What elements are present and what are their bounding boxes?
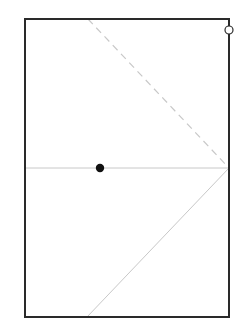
diagram-canvas: [0, 0, 241, 335]
filled-point: [96, 164, 104, 172]
hollow-point: [225, 26, 233, 34]
